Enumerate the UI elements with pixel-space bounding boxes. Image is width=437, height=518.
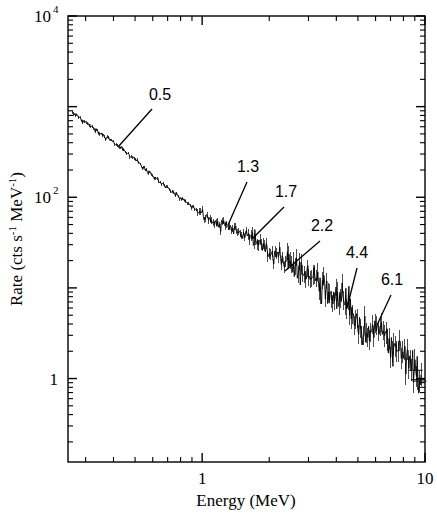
svg-text:2: 2 [53,184,59,196]
svg-text:10: 10 [34,7,51,26]
y-axis-title-text: Rate (cts s-1 MeV-1) [6,172,26,306]
x-tick-label: 10 [417,469,434,488]
spectrum-svg: 110 1041021 0.51.31.72.24.46.1 Energy (M… [0,0,437,518]
annotation-label: 1.7 [275,183,297,200]
svg-text:10: 10 [34,188,51,207]
x-tick-label: 1 [198,469,207,488]
annotation-label: 6.1 [381,271,403,288]
svg-text:4: 4 [53,3,59,15]
plot-background [0,0,437,518]
annotation-label: 2.2 [311,217,333,234]
annotation-label: 0.5 [149,86,171,103]
annotation-label: 1.3 [237,158,259,175]
svg-text:1: 1 [50,370,59,389]
x-axis-title: Energy (MeV) [196,491,295,510]
figure-spectrum-plot: 110 1041021 0.51.31.72.24.46.1 Energy (M… [0,0,437,518]
y-axis-title: Rate (cts s-1 MeV-1) [6,172,26,306]
annotation-label: 4.4 [346,244,368,261]
y-tick-label: 1 [50,370,59,389]
